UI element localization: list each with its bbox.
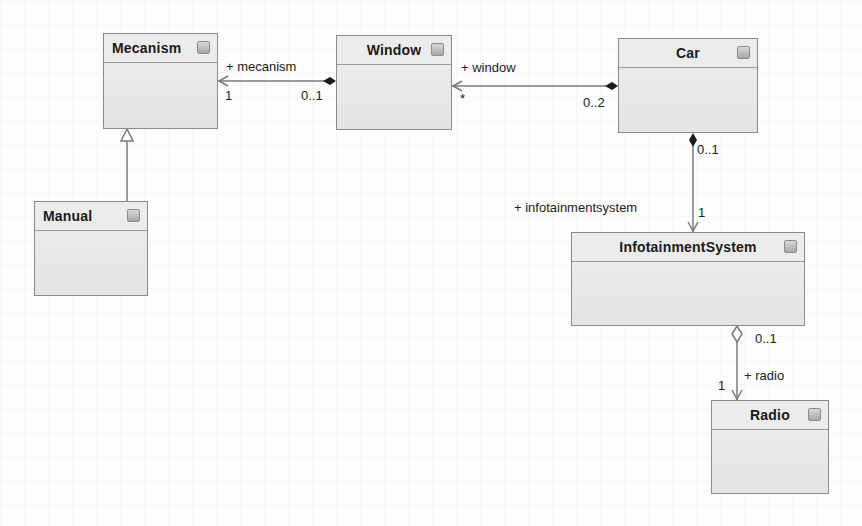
class-body (572, 263, 804, 325)
composition-diamond-icon (689, 133, 697, 147)
association-car-window[interactable] (452, 81, 618, 91)
class-mecanism[interactable]: Mecanism (103, 33, 218, 129)
role-label: + mecanism (226, 59, 296, 74)
multiplicity-label: 0..1 (301, 88, 323, 103)
multiplicity-label: 1 (698, 205, 705, 220)
class-radio[interactable]: Radio (711, 400, 829, 494)
class-body (712, 431, 828, 493)
composition-diamond-icon (605, 82, 618, 90)
collapse-toggle-icon[interactable] (127, 209, 140, 222)
multiplicity-label: 0..2 (583, 95, 605, 110)
association-window-mecanism[interactable] (218, 76, 336, 86)
class-body (337, 66, 451, 129)
collapse-toggle-icon[interactable] (197, 41, 210, 54)
multiplicity-label: 0..1 (755, 331, 777, 346)
role-label: + radio (744, 368, 784, 383)
multiplicity-label: 1 (225, 88, 232, 103)
class-body (35, 232, 147, 295)
multiplicity-label: 1 (718, 378, 725, 393)
class-header: Mecanism (104, 34, 217, 63)
class-car[interactable]: Car (618, 38, 758, 133)
class-header: Window (337, 36, 451, 65)
role-label: + window (461, 60, 516, 75)
class-manual[interactable]: Manual (34, 201, 148, 296)
multiplicity-label: * (460, 91, 465, 106)
class-header: InfotainmentSystem (572, 233, 804, 262)
generalization-manual-mecanism[interactable] (121, 129, 133, 201)
association-infotainment-radio[interactable] (732, 326, 742, 400)
class-name: InfotainmentSystem (619, 239, 756, 255)
class-infotainmentsystem[interactable]: InfotainmentSystem (571, 232, 805, 326)
class-body (104, 64, 217, 128)
class-name: Manual (43, 208, 92, 224)
collapse-toggle-icon[interactable] (737, 46, 750, 59)
generalization-triangle-icon (121, 129, 133, 141)
class-name: Window (367, 42, 422, 58)
class-header: Radio (712, 401, 828, 430)
aggregation-diamond-icon (732, 326, 742, 342)
class-name: Mecanism (112, 40, 181, 56)
uml-class-diagram: Mecanism Window Car Manual InfotainmentS… (0, 0, 862, 526)
class-header: Manual (35, 202, 147, 231)
class-name: Car (676, 45, 700, 61)
multiplicity-label: 0..1 (697, 142, 719, 157)
class-body (619, 69, 757, 132)
class-header: Car (619, 39, 757, 68)
collapse-toggle-icon[interactable] (431, 43, 444, 56)
collapse-toggle-icon[interactable] (784, 240, 797, 253)
role-label: + infotainmentsystem (514, 200, 637, 215)
class-name: Radio (750, 407, 790, 423)
class-window[interactable]: Window (336, 35, 452, 130)
collapse-toggle-icon[interactable] (808, 408, 821, 421)
composition-diamond-icon (323, 77, 336, 85)
